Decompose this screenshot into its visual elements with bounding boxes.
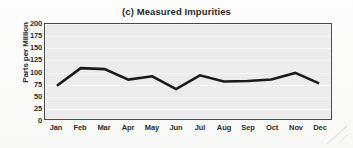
x-axis-tick-labels: JanFebMarAprMayJunJulAugSepOctNovDec — [44, 123, 332, 137]
y-axis-tick-labels: 0255075100125150175200 — [18, 23, 42, 120]
x-tick-jul: Jul — [195, 123, 206, 132]
chart-title: (c) Measured Impurities — [0, 6, 353, 17]
y-tick-25: 25 — [18, 103, 42, 112]
x-tick-dec: Dec — [313, 123, 326, 132]
x-tick-sep: Sep — [241, 123, 254, 132]
x-tick-may: May — [145, 123, 159, 132]
y-tick-50: 50 — [18, 91, 42, 100]
x-tick-jun: Jun — [169, 123, 182, 132]
y-tick-100: 100 — [18, 67, 42, 76]
chart-figure: (c) Measured Impurities Parts per Millio… — [0, 0, 353, 148]
y-tick-125: 125 — [18, 55, 42, 64]
x-tick-aug: Aug — [217, 123, 231, 132]
y-tick-150: 150 — [18, 43, 42, 52]
plot-area — [44, 23, 332, 120]
x-tick-apr: Apr — [122, 123, 135, 132]
y-tick-0: 0 — [18, 116, 42, 125]
data-line-measured-impurities — [57, 68, 319, 89]
y-tick-175: 175 — [18, 31, 42, 40]
x-tick-mar: Mar — [97, 123, 110, 132]
y-tick-75: 75 — [18, 79, 42, 88]
x-tick-nov: Nov — [289, 123, 303, 132]
line-series-svg — [45, 24, 331, 119]
x-tick-jan: Jan — [50, 123, 63, 132]
y-tick-200: 200 — [18, 19, 42, 28]
x-tick-feb: Feb — [73, 123, 86, 132]
x-tick-oct: Oct — [266, 123, 278, 132]
